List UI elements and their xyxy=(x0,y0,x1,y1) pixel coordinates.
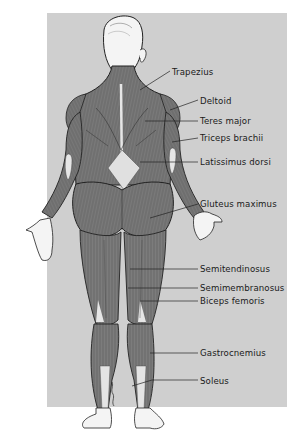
posterior-muscle-figure xyxy=(0,0,296,440)
label-trapezius: Trapezius xyxy=(172,67,213,77)
label-latissimus-dorsi: Latissimus dorsi xyxy=(200,157,271,167)
anatomy-diagram: Trapezius Deltoid Teres major Triceps br… xyxy=(0,0,296,440)
label-triceps-brachii: Triceps brachii xyxy=(200,133,263,143)
label-soleus: Soleus xyxy=(200,376,229,386)
label-semimembranosus: Semimembranosus xyxy=(200,283,284,293)
label-gluteus-maximus: Gluteus maximus xyxy=(200,199,277,209)
torso xyxy=(66,66,180,190)
right-arm xyxy=(164,112,222,240)
label-semitendinosus: Semitendinosus xyxy=(200,264,270,274)
thighs xyxy=(80,230,166,325)
lower-legs xyxy=(83,324,165,429)
label-gastrocnemius: Gastrocnemius xyxy=(200,348,266,358)
left-arm xyxy=(26,112,82,261)
head xyxy=(103,16,146,70)
gluteal-region xyxy=(73,182,174,237)
label-biceps-femoris: Biceps femoris xyxy=(200,296,265,306)
label-deltoid: Deltoid xyxy=(200,96,231,106)
label-teres-major: Teres major xyxy=(200,116,251,126)
